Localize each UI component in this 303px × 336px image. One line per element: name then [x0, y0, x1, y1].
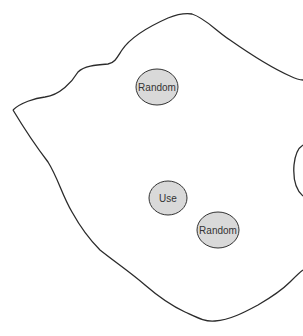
region-outline-right-fragment: [294, 145, 303, 196]
node-label: Use: [159, 193, 177, 204]
node-use[interactable]: Use: [149, 181, 187, 215]
region-outline-left: [13, 110, 303, 321]
diagram-canvas: Random Use Random: [0, 0, 303, 336]
node-random-top[interactable]: Random: [136, 69, 178, 105]
node-label: Random: [199, 225, 237, 236]
node-label: Random: [138, 82, 176, 93]
node-random-bottom[interactable]: Random: [197, 212, 239, 248]
